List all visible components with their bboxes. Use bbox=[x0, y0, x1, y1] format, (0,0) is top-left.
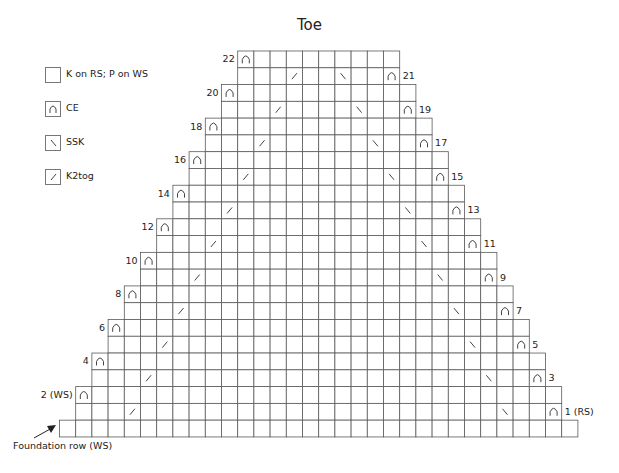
stitch-cell bbox=[367, 168, 383, 185]
row-number-label: 17 bbox=[435, 137, 447, 149]
stitch-cell bbox=[319, 101, 335, 118]
stitch-cell bbox=[303, 202, 319, 219]
stitch-cell bbox=[416, 152, 432, 169]
stitch-cell bbox=[173, 319, 189, 336]
stitch-cell bbox=[108, 403, 124, 420]
row-number-label: 6 bbox=[99, 322, 105, 334]
stitch-cell bbox=[254, 68, 270, 85]
stitch-cell bbox=[108, 370, 124, 387]
stitch-cell bbox=[205, 353, 221, 370]
stitch-cell bbox=[254, 269, 270, 286]
stitch-cell bbox=[351, 252, 367, 269]
stitch-cell bbox=[205, 420, 221, 437]
stitch-cell bbox=[286, 185, 302, 202]
stitch-cell bbox=[335, 51, 351, 68]
stitch-cell bbox=[351, 135, 367, 152]
stitch-cell bbox=[319, 236, 335, 253]
stitch-cell bbox=[222, 152, 238, 169]
stitch-cell bbox=[238, 387, 254, 404]
stitch-cell bbox=[205, 202, 221, 219]
stitch-cell bbox=[270, 118, 286, 135]
chart-row bbox=[238, 51, 400, 68]
stitch-cell bbox=[351, 152, 367, 169]
stitch-cell bbox=[481, 420, 497, 437]
stitch-cell bbox=[238, 319, 254, 336]
stitch-cell bbox=[448, 336, 464, 353]
stitch-cell bbox=[400, 370, 416, 387]
stitch-cell bbox=[189, 353, 205, 370]
stitch-cell bbox=[173, 353, 189, 370]
stitch-cell bbox=[270, 85, 286, 102]
stitch-cell bbox=[432, 336, 448, 353]
stitch-cell bbox=[254, 387, 270, 404]
stitch-cell bbox=[222, 252, 238, 269]
stitch-cell bbox=[384, 252, 400, 269]
row-number-label: 18 bbox=[190, 121, 202, 133]
chart-row bbox=[141, 269, 497, 286]
stitch-cell bbox=[416, 202, 432, 219]
chart-row bbox=[92, 370, 546, 387]
stitch-cell bbox=[400, 286, 416, 303]
stitch-cell bbox=[141, 353, 157, 370]
stitch-cell bbox=[189, 185, 205, 202]
stitch-cell bbox=[351, 185, 367, 202]
stitch-cell bbox=[222, 336, 238, 353]
stitch-cell bbox=[319, 303, 335, 320]
stitch-cell bbox=[416, 135, 432, 152]
stitch-cell bbox=[157, 303, 173, 320]
stitch-cell bbox=[384, 202, 400, 219]
stitch-cell bbox=[400, 336, 416, 353]
stitch-cell bbox=[124, 370, 140, 387]
stitch-cell bbox=[416, 269, 432, 286]
stitch-cell bbox=[465, 219, 481, 236]
stitch-cell bbox=[108, 387, 124, 404]
stitch-cell bbox=[416, 319, 432, 336]
stitch-cell bbox=[157, 387, 173, 404]
stitch-cell bbox=[416, 403, 432, 420]
stitch-cell bbox=[367, 403, 383, 420]
stitch-cell bbox=[481, 387, 497, 404]
stitch-cell bbox=[189, 168, 205, 185]
stitch-cell bbox=[465, 286, 481, 303]
stitch-cell bbox=[254, 85, 270, 102]
stitch-cell bbox=[416, 219, 432, 236]
stitch-cell bbox=[173, 387, 189, 404]
stitch-cell bbox=[335, 319, 351, 336]
stitch-cell bbox=[270, 336, 286, 353]
stitch-cell bbox=[367, 420, 383, 437]
stitch-cell bbox=[416, 185, 432, 202]
stitch-cell bbox=[351, 51, 367, 68]
stitch-cell bbox=[238, 336, 254, 353]
stitch-cell bbox=[416, 118, 432, 135]
row-number-label: 22 bbox=[223, 53, 235, 65]
stitch-cell bbox=[238, 101, 254, 118]
stitch-cell bbox=[513, 403, 529, 420]
stitch-cell bbox=[189, 286, 205, 303]
stitch-cell bbox=[319, 353, 335, 370]
stitch-cell bbox=[400, 118, 416, 135]
stitch-cell bbox=[367, 319, 383, 336]
stitch-cell bbox=[319, 152, 335, 169]
stitch-cell bbox=[432, 252, 448, 269]
stitch-cell bbox=[238, 219, 254, 236]
stitch-cell bbox=[465, 403, 481, 420]
row-number-label: 20 bbox=[206, 87, 218, 99]
stitch-cell bbox=[400, 85, 416, 102]
stitch-cell bbox=[448, 387, 464, 404]
stitch-cell bbox=[400, 185, 416, 202]
stitch-cell bbox=[238, 286, 254, 303]
stitch-cell bbox=[319, 420, 335, 437]
stitch-cell bbox=[367, 185, 383, 202]
chart-row bbox=[205, 135, 432, 152]
stitch-cell bbox=[205, 168, 221, 185]
stitch-cell bbox=[238, 118, 254, 135]
stitch-cell bbox=[367, 252, 383, 269]
stitch-cell bbox=[76, 420, 92, 437]
stitch-cell bbox=[562, 420, 578, 437]
stitch-cell bbox=[173, 420, 189, 437]
stitch-cell bbox=[286, 353, 302, 370]
stitch-cell bbox=[465, 420, 481, 437]
chart-row bbox=[157, 236, 481, 253]
stitch-cell bbox=[400, 135, 416, 152]
stitch-cell bbox=[189, 420, 205, 437]
